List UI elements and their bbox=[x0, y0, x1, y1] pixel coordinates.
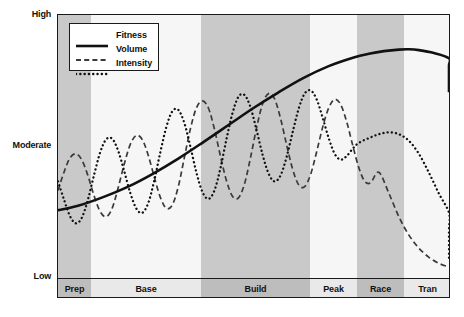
chart-legend: Fitness Volume Intensity bbox=[69, 23, 159, 71]
phase-tick-base: Base bbox=[91, 279, 201, 298]
phase-axis-row: PrepBaseBuildPeakRaceTran bbox=[58, 278, 449, 298]
legend-swatch-volume bbox=[76, 48, 108, 51]
plot-area: Fitness Volume Intensity PrepBaseBuildPe… bbox=[57, 14, 450, 298]
legend-label-fitness: Fitness bbox=[116, 28, 147, 42]
legend-swatch-fitness bbox=[76, 34, 108, 37]
series-path-volume bbox=[58, 93, 449, 267]
legend-label-intensity: Intensity bbox=[116, 56, 152, 70]
legend-item-fitness: Fitness bbox=[76, 28, 156, 42]
phase-tick-build: Build bbox=[201, 279, 310, 298]
legend-label-volume: Volume bbox=[116, 42, 147, 56]
training-periodization-chart: High Moderate Low Fitness Volume Intensi… bbox=[0, 0, 464, 317]
y-axis-label-high: High bbox=[0, 9, 51, 19]
legend-swatch-intensity bbox=[76, 62, 108, 65]
series-path-fitness bbox=[58, 49, 449, 210]
y-axis-label-low: Low bbox=[0, 271, 51, 281]
legend-item-volume: Volume bbox=[76, 42, 156, 56]
y-axis-label-moderate: Moderate bbox=[0, 140, 51, 150]
phase-tick-tran: Tran bbox=[404, 279, 450, 298]
phase-tick-peak: Peak bbox=[310, 279, 357, 298]
legend-item-intensity: Intensity bbox=[76, 56, 156, 70]
phase-tick-prep: Prep bbox=[58, 279, 91, 298]
series-path-intensity bbox=[58, 90, 449, 259]
phase-tick-race: Race bbox=[357, 279, 404, 298]
